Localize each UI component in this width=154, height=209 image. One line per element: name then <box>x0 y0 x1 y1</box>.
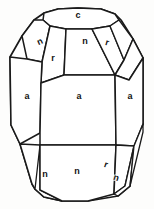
face-label-upper-left-r: r <box>51 53 55 63</box>
crystal-form-diagram: c n r n r a a a n n r n <box>0 0 154 209</box>
face-center-a <box>40 75 116 145</box>
face-label-top-c: c <box>75 10 80 20</box>
crystal-drawing: c n r n r a a a n n r n <box>0 0 154 209</box>
face-label-upper-mid-n: n <box>82 36 88 46</box>
face-label-lower-left-n: n <box>42 169 48 179</box>
face-label-lower-mid-n: n <box>74 166 80 176</box>
